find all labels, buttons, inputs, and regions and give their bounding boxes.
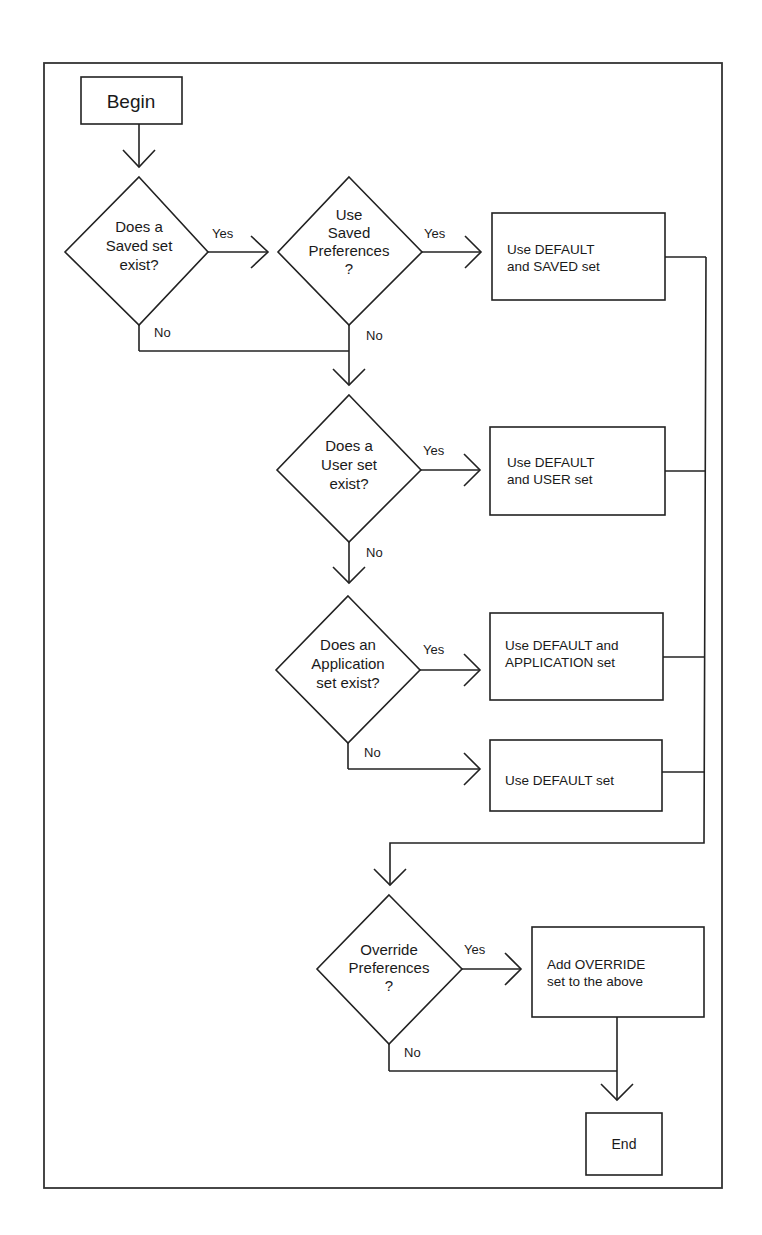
end-node: End bbox=[586, 1113, 662, 1175]
action-text: Use DEFAULT set bbox=[505, 773, 614, 788]
begin-label: Begin bbox=[107, 91, 156, 112]
edge-label-yes: Yes bbox=[212, 226, 234, 241]
action-add-override: Add OVERRIDE set to the above bbox=[532, 927, 704, 1017]
flowchart: Begin Does a Saved set exist? Yes No Use… bbox=[0, 0, 762, 1235]
decision-text: Use bbox=[336, 206, 363, 223]
edge-label-yes: Yes bbox=[423, 642, 445, 657]
edge-label-yes: Yes bbox=[423, 443, 445, 458]
decision-text: exist? bbox=[119, 256, 158, 273]
action-use-default: Use DEFAULT set bbox=[490, 740, 662, 811]
arrow-user-no: No bbox=[333, 542, 383, 583]
action-use-default-and-application: Use DEFAULT and APPLICATION set bbox=[490, 613, 663, 700]
arrow-override-yes: Yes bbox=[462, 942, 521, 985]
end-label: End bbox=[612, 1136, 637, 1152]
action-use-default-and-user: Use DEFAULT and USER set bbox=[490, 427, 665, 515]
arrow-use-saved-yes: Yes bbox=[422, 226, 481, 268]
decision-override-preferences: Override Preferences ? bbox=[317, 895, 462, 1044]
arrow-app-no: No bbox=[348, 743, 480, 785]
arrow-user-yes: Yes bbox=[421, 443, 480, 486]
decision-text: set exist? bbox=[316, 674, 379, 691]
arrow-app-yes: Yes bbox=[420, 642, 480, 686]
decision-text: Preferences bbox=[349, 959, 430, 976]
decision-text: Override bbox=[360, 941, 418, 958]
decision-saved-set-exists: Does a Saved set exist? bbox=[65, 177, 208, 325]
decision-text: Application bbox=[311, 655, 384, 672]
arrow-override-no: No bbox=[389, 1044, 617, 1071]
decision-text: Does an bbox=[320, 636, 376, 653]
arrow-to-end bbox=[601, 1017, 633, 1100]
decision-text: Does a bbox=[325, 437, 373, 454]
arrow-begin-to-saved bbox=[123, 124, 155, 167]
action-text: Add OVERRIDE bbox=[547, 957, 645, 972]
edge-label-no: No bbox=[364, 745, 381, 760]
decision-text: ? bbox=[385, 977, 393, 994]
edge-label-yes: Yes bbox=[464, 942, 486, 957]
edge-label-no: No bbox=[404, 1045, 421, 1060]
decision-text: ? bbox=[345, 260, 353, 277]
decision-use-saved-preferences: Use Saved Preferences ? bbox=[278, 177, 422, 325]
decision-text: User set bbox=[321, 456, 378, 473]
action-use-default-and-saved: Use DEFAULT and SAVED set bbox=[492, 213, 665, 300]
decision-application-set-exists: Does an Application set exist? bbox=[276, 596, 420, 743]
arrow-saved-yes: Yes bbox=[208, 226, 268, 268]
decision-text: Does a bbox=[115, 218, 163, 235]
edge-label-no: No bbox=[366, 545, 383, 560]
decision-text: Saved set bbox=[106, 237, 174, 254]
edge-label-no: No bbox=[154, 325, 171, 340]
action-text: APPLICATION set bbox=[505, 655, 615, 670]
action-text: Use DEFAULT bbox=[507, 455, 595, 470]
action-text: Use DEFAULT and bbox=[505, 638, 619, 653]
decision-user-set-exists: Does a User set exist? bbox=[277, 395, 421, 542]
decision-text: Preferences bbox=[309, 242, 390, 259]
edge-label-yes: Yes bbox=[424, 226, 446, 241]
decision-text: Saved bbox=[328, 224, 371, 241]
arrow-saved-no: No bbox=[139, 325, 349, 351]
decision-text: exist? bbox=[329, 475, 368, 492]
arrow-use-saved-no: No bbox=[333, 325, 383, 385]
action-text: set to the above bbox=[547, 974, 643, 989]
begin-node: Begin bbox=[81, 77, 182, 124]
edge-label-no: No bbox=[366, 328, 383, 343]
action-text: and SAVED set bbox=[507, 259, 600, 274]
action-text: Use DEFAULT bbox=[507, 242, 595, 257]
action-text: and USER set bbox=[507, 472, 593, 487]
